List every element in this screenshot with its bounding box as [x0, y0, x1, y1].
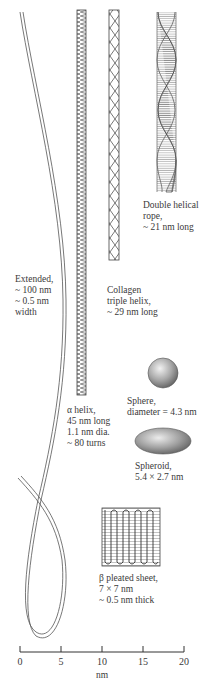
spheroid — [135, 428, 191, 454]
label-extended: Extended, ~ 100 nm ~ 0.5 nm width — [15, 274, 53, 318]
beta-pleated-sheet — [102, 508, 160, 566]
label-line: 7 × 7 nm — [99, 584, 158, 595]
label-line: triple helix, — [107, 296, 158, 307]
double-helical-rope — [157, 12, 176, 192]
scale-tick-10: 10 — [97, 656, 107, 667]
label-line: Spheroid, — [135, 461, 183, 472]
collagen-triple-helix — [109, 10, 119, 260]
scale-unit: nm — [96, 670, 108, 680]
label-line: ~ 80 turns — [67, 438, 110, 449]
label-beta-sheet: β pleated sheet, 7 × 7 nm ~ 0.5 nm thick — [99, 573, 158, 606]
sphere — [148, 358, 178, 388]
label-line: ~ 0.5 nm — [15, 296, 53, 307]
label-line: diameter = 4.3 nm — [127, 407, 197, 418]
scale-tick-20: 20 — [179, 656, 189, 667]
label-line: ~ 100 nm — [15, 285, 53, 296]
label-line: Collagen — [107, 285, 158, 296]
label-line: Sphere, — [127, 396, 197, 407]
scale-tick-15: 15 — [138, 656, 148, 667]
label-line: 5.4 × 2.7 nm — [135, 472, 183, 483]
label-line: Extended, — [15, 274, 53, 285]
label-line: β pleated sheet, — [99, 573, 158, 584]
alpha-helix — [77, 10, 86, 395]
scale-bar — [20, 646, 184, 652]
label-line: 1.1 nm dia. — [67, 427, 110, 438]
extended-chain — [18, 12, 66, 638]
scale-tick-0: 0 — [18, 656, 23, 667]
label-line: ~ 29 nm long — [107, 307, 158, 318]
label-line: Double helical — [143, 200, 199, 211]
label-sphere: Sphere, diameter = 4.3 nm — [127, 396, 197, 418]
scale-tick-5: 5 — [59, 656, 64, 667]
label-alpha-helix: α helix, 45 nm long 1.1 nm dia. ~ 80 tur… — [67, 405, 110, 449]
label-line: ~ 0.5 nm thick — [99, 595, 158, 606]
label-line: α helix, — [67, 405, 110, 416]
label-line: rope, — [143, 211, 199, 222]
label-collagen: Collagen triple helix, ~ 29 nm long — [107, 285, 158, 318]
label-line: ~ 21 nm long — [143, 222, 199, 233]
label-line: 45 nm long — [67, 416, 110, 427]
label-line: width — [15, 307, 53, 318]
label-double-helix: Double helical rope, ~ 21 nm long — [143, 200, 199, 233]
label-spheroid: Spheroid, 5.4 × 2.7 nm — [135, 461, 183, 483]
